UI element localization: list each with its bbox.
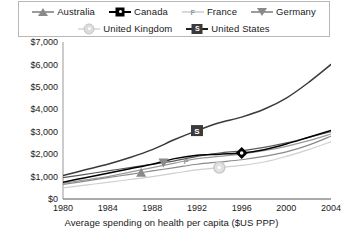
series-marker-united-kingdom bbox=[214, 162, 225, 173]
y-axis-tick-labels: $0$1,000$2,000$3,000$4,000$5,000$6,000$7… bbox=[30, 38, 58, 204]
x-tick-label: 2000 bbox=[276, 203, 296, 213]
x-tick-label: 2004 bbox=[321, 203, 341, 213]
legend-item-united-states[interactable]: S United States bbox=[186, 23, 269, 35]
series-marker-united-states: S bbox=[191, 125, 203, 136]
legend-item-canada[interactable]: Canada bbox=[109, 6, 168, 18]
y-tick-label: $7,000 bbox=[30, 38, 58, 47]
triangle-down-icon bbox=[251, 6, 273, 18]
legend-row-1: Australia Canada F France bbox=[19, 3, 329, 20]
legend-label-united-kingdom: United Kingdom bbox=[103, 23, 172, 34]
chart-legend: Australia Canada F France bbox=[18, 1, 330, 37]
y-tick-label: $2,000 bbox=[30, 149, 58, 159]
letter-f-icon: F bbox=[182, 6, 204, 18]
health-spending-line-chart: Australia Canada F France bbox=[0, 0, 343, 237]
data-marker-group: FS bbox=[136, 125, 248, 177]
legend-label-germany: Germany bbox=[276, 6, 316, 17]
x-tick-label: 1988 bbox=[142, 203, 162, 213]
legend-item-australia[interactable]: Australia bbox=[32, 6, 95, 18]
legend-label-canada: Canada bbox=[134, 6, 168, 17]
legend-label-australia: Australia bbox=[57, 6, 95, 17]
triangle-up-icon bbox=[32, 6, 54, 18]
y-tick-label: $5,000 bbox=[30, 82, 58, 92]
y-tick-label: $6,000 bbox=[30, 60, 58, 70]
legend-item-united-kingdom[interactable]: United Kingdom bbox=[78, 23, 172, 35]
svg-text:F: F bbox=[183, 157, 188, 166]
legend-item-germany[interactable]: Germany bbox=[251, 6, 316, 18]
legend-item-france[interactable]: F France bbox=[182, 6, 237, 18]
y-tick-label: $1,000 bbox=[30, 172, 58, 182]
legend-row-2: United Kingdom S United States bbox=[19, 20, 329, 37]
x-tick-label: 1980 bbox=[53, 203, 73, 213]
svg-text:S: S bbox=[194, 127, 200, 136]
x-axis-title: Average spending on health per capita ($… bbox=[0, 217, 343, 228]
circle-icon bbox=[78, 23, 100, 35]
x-axis-tick-labels: 1980198419881992199620002004 bbox=[53, 203, 341, 213]
y-tick-label: $3,000 bbox=[30, 127, 58, 137]
legend-label-france: France bbox=[207, 6, 237, 17]
y-tick-label: $4,000 bbox=[30, 104, 58, 114]
series-marker-canada bbox=[236, 147, 248, 159]
plot-area: $0$1,000$2,000$3,000$4,000$5,000$6,000$7… bbox=[0, 38, 343, 213]
x-tick-label: 1992 bbox=[187, 203, 207, 213]
diamond-icon bbox=[109, 6, 131, 18]
square-s-icon: S bbox=[186, 23, 208, 35]
x-tick-label: 1984 bbox=[98, 203, 118, 213]
series-marker-france: F bbox=[183, 157, 188, 166]
x-tick-label: 1996 bbox=[232, 203, 252, 213]
legend-label-united-states: United States bbox=[211, 23, 269, 34]
